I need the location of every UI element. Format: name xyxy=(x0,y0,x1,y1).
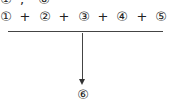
top-separator: , xyxy=(20,0,24,7)
arrow-down-icon xyxy=(79,79,85,85)
sum-bar xyxy=(8,31,163,32)
arrow-shaft xyxy=(82,33,83,79)
result-term-6: ⑥ xyxy=(77,88,89,102)
term-2: ② xyxy=(39,10,51,24)
top-term-1: ① xyxy=(0,0,12,7)
term-1: ① xyxy=(0,10,12,24)
top-term-8: ⑧ xyxy=(38,0,50,7)
term-3: ③ xyxy=(78,10,90,24)
plus-1: + xyxy=(20,10,31,24)
plus-2: + xyxy=(59,10,70,24)
plus-3: + xyxy=(98,10,109,24)
term-5: ⑤ xyxy=(155,10,167,24)
term-4: ④ xyxy=(116,10,128,24)
plus-4: + xyxy=(137,10,148,24)
